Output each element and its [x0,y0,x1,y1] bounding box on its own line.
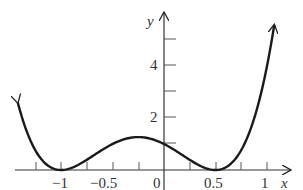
x-tick-label-1: 1 [261,175,269,190]
y-axis-label: y [145,13,154,29]
x-tick-label-neg1: −1 [52,175,68,190]
y-tick-label-2: 2 [150,109,158,125]
function-plot: −1 −0.5 0 0.5 1 x 2 4 y [0,0,303,190]
x-axis-label: x [280,175,288,190]
x-tick-label-neg0.5: −0.5 [90,175,117,190]
y-ticks [164,39,176,143]
x-tick-label-0: 0 [153,175,161,190]
y-tick-label-4: 4 [150,57,158,73]
function-curve [18,25,274,170]
x-tick-label-0.5: 0.5 [204,175,223,190]
